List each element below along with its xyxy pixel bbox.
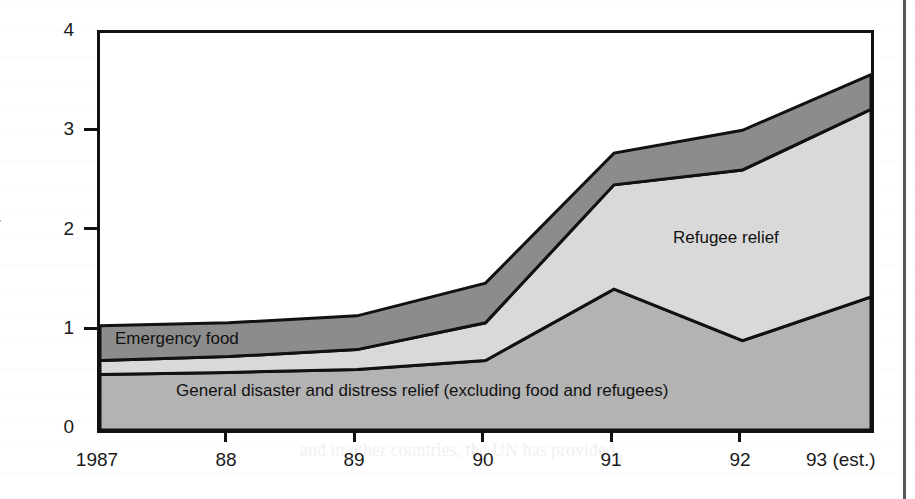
x-tick-label-89: 89 — [314, 449, 394, 471]
x-tick-mark-90 — [481, 430, 484, 442]
series-label-general-relief: General disaster and distress relief (ex… — [176, 381, 668, 401]
y-tick-label-4: 4 — [46, 19, 74, 41]
y-tick-label-0: 0 — [46, 416, 74, 438]
x-tick-label-91: 91 — [571, 449, 651, 471]
y-tick-label-2: 2 — [46, 218, 74, 240]
y-tick-mark-2 — [84, 227, 97, 230]
page-edge-right — [903, 0, 906, 499]
y-axis-label: $ billion — [0, 171, 3, 225]
x-tick-mark-89 — [353, 430, 356, 442]
figure-root: the effects of the war, and the million … — [0, 0, 915, 499]
y-tick-label-3: 3 — [46, 118, 74, 140]
series-label-refugee-relief: Refugee relief — [673, 228, 779, 248]
x-tick-label-93: 93 (est.) — [806, 449, 912, 471]
x-tick-label-1987: 1987 — [57, 449, 137, 471]
x-tick-label-88: 88 — [186, 449, 266, 471]
x-tick-mark-92 — [738, 430, 741, 442]
x-tick-label-90: 90 — [443, 449, 523, 471]
x-tick-mark-91 — [610, 430, 613, 442]
y-tick-label-1: 1 — [46, 317, 74, 339]
y-tick-mark-1 — [84, 327, 97, 330]
x-tick-label-92: 92 — [700, 449, 780, 471]
series-label-emergency-food: Emergency food — [115, 329, 239, 349]
x-tick-mark-88 — [224, 430, 227, 442]
y-tick-mark-3 — [84, 128, 97, 131]
